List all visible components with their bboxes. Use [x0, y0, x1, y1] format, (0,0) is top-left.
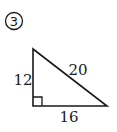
- hypotenuse-label: 20: [68, 61, 87, 79]
- horizontal-leg-label: 16: [59, 108, 78, 126]
- right-angle-marker-icon: [33, 97, 42, 106]
- problem-number-badge: 3: [6, 13, 23, 30]
- triangle-diagram: 3 12 16 20: [0, 0, 117, 132]
- vertical-leg-label: 12: [13, 71, 32, 89]
- problem-number: 3: [10, 14, 18, 29]
- diagram-canvas: 3 12 16 20: [0, 0, 117, 132]
